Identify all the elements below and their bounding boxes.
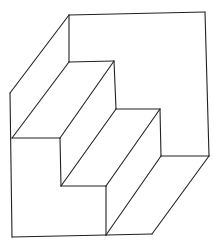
left-slant-top-edge: [10, 15, 69, 93]
diag-step2-right: [106, 109, 160, 186]
step1-front-riser: [60, 138, 61, 186]
step1-back-edge: [69, 61, 114, 62]
diag-floor-left: [106, 156, 161, 235]
staircase-illusion-drawing: [0, 0, 214, 244]
step1-back-riser: [114, 61, 116, 109]
diag-step2-left: [61, 109, 116, 186]
right-wall-edge: [205, 12, 209, 156]
back-wall-top-edge: [69, 12, 205, 15]
step2-back-riser: [160, 109, 161, 156]
bottom-edge: [12, 235, 106, 237]
floor-front-edge: [106, 234, 152, 235]
diag-step1-right: [60, 61, 114, 138]
diag-floor-right: [152, 156, 209, 234]
diag-step1-left: [12, 62, 69, 138]
left-outer-edge: [10, 93, 12, 237]
